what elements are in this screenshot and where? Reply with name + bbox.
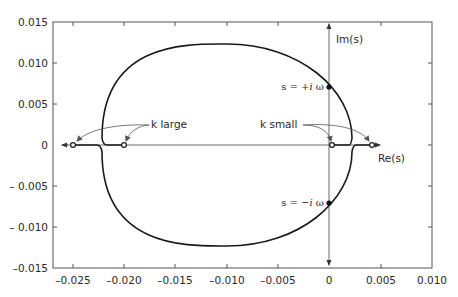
y-tick-label: – 0.010 — [9, 221, 48, 233]
root-locus-chart: 0.015 0.010 0.005 0 – 0.005 – 0.010 –0.0… — [0, 0, 458, 297]
x-tick-label: –0.005 — [260, 274, 295, 286]
x-tick-label: 0 — [326, 274, 333, 286]
left-breakaway — [73, 138, 124, 152]
re-axis-label: Re(s) — [378, 152, 405, 164]
im-axis-label: Im(s) — [336, 33, 363, 45]
y-tick-labels: 0.015 0.010 0.005 0 – 0.005 – 0.010 –0.0… — [9, 16, 48, 274]
open-circle-marker — [71, 143, 76, 148]
y-tick-label: 0.005 — [18, 98, 48, 110]
k-small-arrow — [303, 125, 331, 141]
y-tick-label: 0 — [41, 139, 48, 151]
open-circle-marker — [370, 143, 375, 148]
x-tick-label: –0.010 — [209, 274, 244, 286]
x-tick-label: –0.015 — [157, 274, 192, 286]
k-small-label: k small — [260, 118, 297, 130]
k-large-arrow — [77, 125, 149, 141]
y-tick-label: 0.015 — [18, 16, 48, 28]
y-tick-label: 0.010 — [18, 57, 48, 69]
x-tick-label: –0.025 — [55, 274, 90, 286]
k-small-arrow — [303, 125, 369, 141]
open-circle-marker — [330, 143, 335, 148]
minus-i-omega-label: s = −i ω — [281, 197, 324, 208]
k-large-arrow — [126, 125, 149, 141]
y-tick-label: –0.015 — [13, 262, 48, 274]
x-tick-label: 0.010 — [417, 274, 447, 286]
plus-i-omega-label: s = +i ω — [281, 81, 324, 92]
x-tick-labels: –0.025 –0.020 –0.015 –0.010 –0.005 0 0.0… — [55, 274, 447, 286]
k-large-label: k large — [151, 118, 187, 130]
x-tick-label: –0.020 — [106, 274, 141, 286]
minus-i-omega-point — [326, 200, 331, 205]
x-tick-label: 0.005 — [366, 274, 396, 286]
y-tick-label: – 0.005 — [9, 180, 48, 192]
plus-i-omega-point — [326, 84, 331, 89]
open-circle-marker — [122, 143, 127, 148]
